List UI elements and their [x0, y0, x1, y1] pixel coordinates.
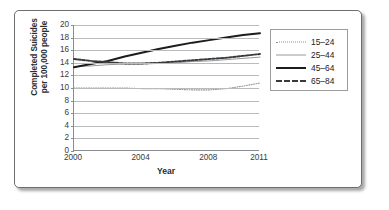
- y-tick-mark: [71, 113, 74, 114]
- legend-item-15-24[interactable]: 15–24: [276, 35, 342, 48]
- y-axis-title-line1: Completed Suicides: [29, 0, 39, 127]
- y-tick-label: 16: [60, 46, 69, 54]
- y-tick-mark: [71, 126, 74, 127]
- legend-line-icon-65-84: [276, 76, 306, 86]
- legend-line-icon-25-44: [276, 50, 306, 60]
- plot-area: [73, 25, 259, 151]
- y-tick-mark: [71, 38, 74, 39]
- legend-item-45-64[interactable]: 45–64: [276, 61, 342, 74]
- legend-label-15-24: 15–24: [311, 37, 334, 47]
- y-tick-mark: [71, 75, 74, 76]
- legend-label-65-84: 65–84: [311, 76, 334, 86]
- gridline: [74, 50, 259, 51]
- gridline: [74, 101, 259, 102]
- chart-plot-wrapper: Completed Suicides per 100,000 people 02…: [15, 11, 363, 189]
- legend-label-25-44: 25–44: [311, 50, 334, 60]
- x-tick-label: 2011: [250, 153, 268, 162]
- chart-figure: Completed Suicides per 100,000 people 02…: [14, 10, 362, 188]
- y-tick-mark: [71, 50, 74, 51]
- y-tick-label: 18: [60, 34, 69, 42]
- y-tick-label: 8: [64, 97, 69, 105]
- x-tick-label: 2000: [64, 153, 82, 162]
- y-tick-label: 10: [60, 84, 69, 92]
- legend-line-icon-45-64: [276, 63, 306, 73]
- legend-item-25-44[interactable]: 25–44: [276, 48, 342, 61]
- y-tick-mark: [71, 63, 74, 64]
- gridline: [74, 38, 259, 39]
- y-axis-title: Completed Suicides per 100,000 people: [29, 0, 49, 127]
- y-axis-title-line2: per 100,000 people: [39, 0, 49, 127]
- legend-line-icon-15-24: [276, 37, 306, 47]
- y-tick-label: 4: [64, 122, 69, 130]
- x-axis-title: Year: [73, 166, 259, 176]
- y-tick-mark: [71, 101, 74, 102]
- legend-label-45-64: 45–64: [311, 63, 334, 73]
- y-tick-mark: [71, 151, 74, 152]
- y-tick-label: 12: [60, 71, 69, 79]
- gridline: [74, 113, 259, 114]
- y-tick-mark: [71, 88, 74, 89]
- x-tick-label: 2008: [199, 153, 217, 162]
- gridline: [74, 126, 259, 127]
- y-tick-label: 14: [60, 59, 69, 67]
- gridline: [74, 88, 259, 89]
- chart-legend: 15–24 25–44 45–64 65–84: [270, 29, 348, 91]
- gridline: [74, 63, 259, 64]
- y-tick-mark: [71, 25, 74, 26]
- gridline: [74, 138, 259, 139]
- y-tick-label: 6: [64, 109, 69, 117]
- gridline: [74, 75, 259, 76]
- y-axis-tick-labels: 02468101214161820: [51, 25, 69, 151]
- y-tick-label: 2: [64, 134, 69, 142]
- y-tick-mark: [71, 138, 74, 139]
- x-axis-tick-labels: 2000200420082011: [73, 153, 259, 167]
- gridline: [74, 25, 259, 26]
- y-tick-label: 20: [60, 21, 69, 29]
- legend-item-65-84[interactable]: 65–84: [276, 74, 342, 87]
- x-tick-label: 2004: [132, 153, 150, 162]
